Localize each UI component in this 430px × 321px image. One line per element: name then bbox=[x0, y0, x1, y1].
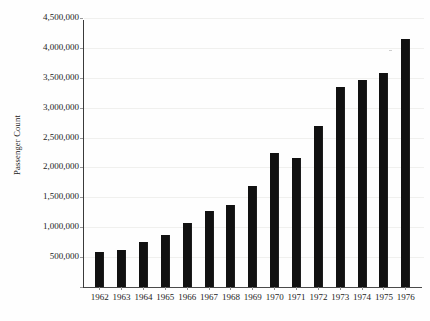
x-axis-tick-mark bbox=[296, 287, 297, 290]
x-axis-tick-mark bbox=[230, 287, 231, 290]
bar bbox=[336, 87, 345, 287]
x-axis-tick-label: 1976 bbox=[391, 292, 421, 302]
x-axis-tick-mark bbox=[252, 287, 253, 290]
bar bbox=[248, 186, 257, 287]
bar bbox=[401, 39, 410, 287]
bar bbox=[95, 252, 104, 287]
y-axis-zero-tick-mark bbox=[80, 287, 83, 288]
y-axis-tick-mark bbox=[80, 18, 83, 19]
x-axis-tick-mark bbox=[187, 287, 188, 290]
x-axis-tick-mark bbox=[274, 287, 275, 290]
y-axis-tick-mark bbox=[80, 138, 83, 139]
bar bbox=[161, 235, 170, 287]
y-axis-tick-mark bbox=[80, 227, 83, 228]
y-axis-tick-mark bbox=[80, 48, 83, 49]
y-axis-tick-label: 500,000 bbox=[9, 252, 79, 261]
y-axis-tick-mark bbox=[80, 167, 83, 168]
bar bbox=[139, 242, 148, 287]
y-axis-tick-mark bbox=[80, 197, 83, 198]
x-axis-tick-mark bbox=[165, 287, 166, 290]
x-axis-tick-mark bbox=[405, 287, 406, 290]
bar bbox=[226, 205, 235, 287]
x-axis-tick-mark bbox=[99, 287, 100, 290]
y-axis-tick-label: 4,000,000 bbox=[9, 43, 79, 52]
plot-area bbox=[84, 18, 424, 287]
bar bbox=[292, 158, 301, 287]
bar-chart-figure: Passenger Count 500,0001,000,0001,500,00… bbox=[0, 0, 430, 321]
x-axis-tick-mark bbox=[143, 287, 144, 290]
y-axis-tick-mark bbox=[80, 78, 83, 79]
x-axis-tick-mark bbox=[121, 287, 122, 290]
x-axis-tick-mark bbox=[209, 287, 210, 290]
bar bbox=[183, 223, 192, 287]
x-axis-tick-mark bbox=[383, 287, 384, 290]
y-axis-tick-label: 1,500,000 bbox=[9, 192, 79, 201]
bar bbox=[117, 250, 126, 287]
bar bbox=[270, 153, 279, 288]
x-axis-tick-mark bbox=[362, 287, 363, 290]
y-axis-tick-label: 3,000,000 bbox=[9, 103, 79, 112]
y-axis-tick-label: 4,500,000 bbox=[9, 13, 79, 22]
y-axis-tick-mark bbox=[80, 257, 83, 258]
y-axis-tick-label: 2,500,000 bbox=[9, 133, 79, 142]
bar bbox=[205, 211, 214, 287]
y-axis-tick-label: 2,000,000 bbox=[9, 162, 79, 171]
scan-artifact-speck bbox=[389, 50, 392, 51]
y-axis-tick-label: 3,500,000 bbox=[9, 73, 79, 82]
x-axis-tick-mark bbox=[318, 287, 319, 290]
y-axis-tick-mark bbox=[80, 108, 83, 109]
y-axis-tick-label: 1,000,000 bbox=[9, 222, 79, 231]
bar bbox=[358, 80, 367, 287]
bar bbox=[314, 126, 323, 287]
x-axis-tick-mark bbox=[340, 287, 341, 290]
bar bbox=[379, 73, 388, 287]
